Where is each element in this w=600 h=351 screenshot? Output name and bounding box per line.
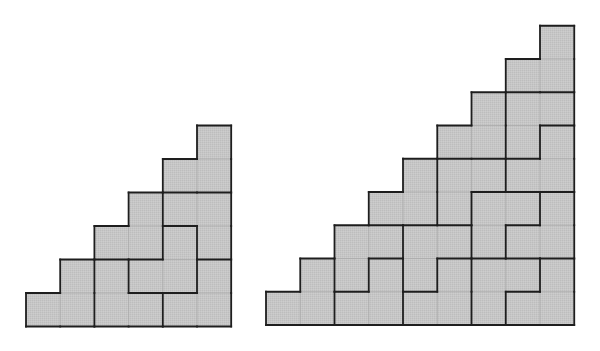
cells	[266, 26, 574, 325]
grid-cell	[437, 159, 471, 192]
grid-cell	[472, 126, 506, 159]
grid-cell	[437, 292, 471, 325]
grid-cell	[197, 126, 231, 160]
grid-cell	[437, 225, 471, 258]
grid-cell	[472, 292, 506, 325]
grid-cell	[403, 292, 437, 325]
grid-cell	[163, 260, 197, 294]
grid-cell	[403, 159, 437, 192]
grid-cell	[335, 225, 369, 258]
grid-cell	[506, 92, 540, 125]
grid-cell	[540, 159, 574, 192]
grid-cell	[506, 192, 540, 225]
grid-cell	[472, 92, 506, 125]
grid-cell	[506, 59, 540, 92]
grid-cell	[60, 260, 94, 294]
grid-cell	[540, 292, 574, 325]
grid-cell	[94, 293, 128, 327]
staircase-6-steps	[26, 126, 231, 327]
staircase-9-steps	[266, 26, 574, 325]
grid-cell	[300, 259, 334, 292]
grid-cell	[472, 225, 506, 258]
grid-cell	[129, 293, 163, 327]
grid-cell	[26, 293, 60, 327]
grid-cell	[369, 192, 403, 225]
grid-cell	[506, 159, 540, 192]
grid-cell	[540, 59, 574, 92]
grid-cell	[540, 225, 574, 258]
grid-cell	[369, 292, 403, 325]
grid-cell	[437, 126, 471, 159]
grid-cell	[472, 192, 506, 225]
tromino-tiling-diagram	[0, 0, 600, 351]
grid-cell	[403, 192, 437, 225]
grid-cell	[163, 159, 197, 193]
grid-cell	[506, 259, 540, 292]
grid-cell	[472, 259, 506, 292]
grid-cell	[369, 259, 403, 292]
grid-cell	[94, 226, 128, 260]
grid-cell	[437, 259, 471, 292]
grid-cell	[60, 293, 94, 327]
grid-cell	[335, 292, 369, 325]
grid-cell	[540, 126, 574, 159]
grid-cell	[163, 193, 197, 227]
grid-cell	[540, 92, 574, 125]
grid-cell	[506, 292, 540, 325]
grid-cell	[94, 260, 128, 294]
grid-cell	[472, 159, 506, 192]
grid-cell	[335, 259, 369, 292]
grid-cell	[266, 292, 300, 325]
grid-cell	[540, 192, 574, 225]
grid-cell	[129, 226, 163, 260]
grid-cell	[197, 159, 231, 193]
grid-cell	[540, 26, 574, 59]
grid-cell	[300, 292, 334, 325]
grid-cell	[197, 193, 231, 227]
grid-cell	[129, 260, 163, 294]
grid-cell	[197, 226, 231, 260]
grid-cell	[369, 225, 403, 258]
grid-cell	[506, 126, 540, 159]
grid-cell	[163, 293, 197, 327]
grid-cell	[403, 225, 437, 258]
grid-cell	[197, 293, 231, 327]
grid-cell	[506, 225, 540, 258]
grid-cell	[403, 259, 437, 292]
grid-cell	[163, 226, 197, 260]
grid-cell	[540, 259, 574, 292]
grid-cell	[129, 193, 163, 227]
grid-cell	[197, 260, 231, 294]
grid-cell	[437, 192, 471, 225]
